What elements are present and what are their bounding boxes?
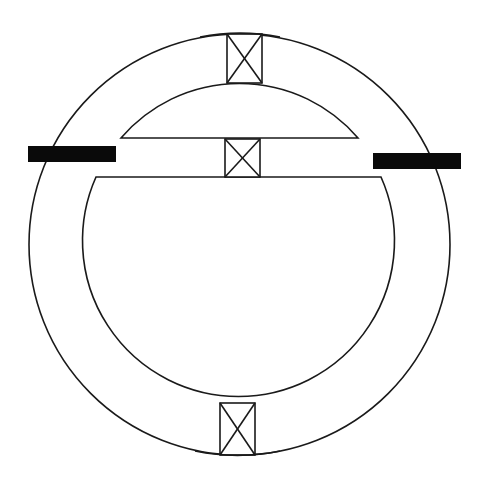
top-cross-box (227, 34, 262, 83)
lower-d-segment (83, 177, 395, 396)
left-label-redacted (28, 146, 116, 162)
middle-cross-box (225, 139, 260, 177)
bottom-cross-box (220, 403, 255, 455)
upper-lens-segment (121, 83, 358, 138)
ring-diagram (0, 0, 478, 477)
right-label-redacted (373, 153, 461, 169)
